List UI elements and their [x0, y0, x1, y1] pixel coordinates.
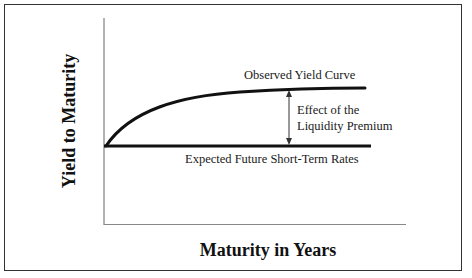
annotation-line-2: Liquidity Premium	[297, 118, 392, 134]
observed-yield-curve-label: Observed Yield Curve	[244, 69, 355, 82]
annotation-line-1: Effect of the	[297, 102, 392, 118]
expected-rates-label: Expected Future Short-Term Rates	[185, 153, 359, 166]
double-arrow-icon	[286, 90, 292, 145]
y-axis-title: Yield to Maturity	[60, 54, 78, 188]
liquidity-premium-annotation: Effect of the Liquidity Premium	[297, 102, 392, 134]
x-axis-title: Maturity in Years	[200, 241, 336, 259]
